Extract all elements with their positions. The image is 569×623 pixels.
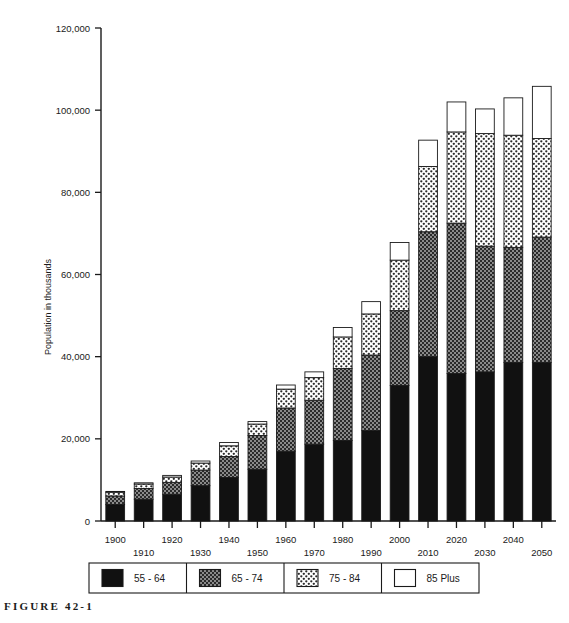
bar-segment (504, 98, 523, 135)
bar-segment (333, 328, 352, 337)
bar-stack (362, 302, 381, 521)
bar-stack (305, 372, 324, 521)
bar-segment (163, 477, 182, 482)
bar-segment (191, 463, 210, 470)
bar-segment (276, 389, 295, 408)
bar-segment (447, 102, 466, 132)
bar-stack (163, 475, 182, 521)
bar-segment (419, 140, 438, 166)
bar-segment (447, 223, 466, 373)
bar-segment (447, 374, 466, 521)
bar-segment (390, 385, 409, 521)
legend-swatch-75-84 (297, 570, 318, 587)
bar-stack (276, 385, 295, 521)
bar-stack (390, 242, 409, 521)
bar-segment (191, 470, 210, 486)
x-tick-label: 1980 (332, 534, 353, 545)
bar-segment (276, 385, 295, 389)
y-axis-ticks: 020,00040,00060,00080,000100,000120,000 (56, 23, 101, 527)
bar-segment (419, 166, 438, 231)
x-tick-label: 1970 (304, 547, 325, 558)
bar-series-group (106, 86, 551, 521)
x-tick-label: 1910 (133, 547, 154, 558)
bar-segment (248, 424, 267, 436)
bar-segment (163, 475, 182, 477)
bar-stack (532, 86, 551, 521)
y-axis-title: Population in thousands (43, 258, 53, 355)
bar-segment (504, 135, 523, 247)
x-tick-label: 1990 (361, 547, 382, 558)
bar-segment (220, 477, 239, 521)
bar-stack (220, 443, 239, 521)
bar-segment (163, 494, 182, 521)
bar-segment (362, 302, 381, 314)
y-tick-label: 20,000 (61, 433, 90, 444)
bar-segment (333, 337, 352, 369)
chart-legend: 55 - 6465 - 7475 - 8485 Plus (89, 563, 479, 593)
bar-segment (305, 378, 324, 401)
x-tick-label: 1930 (190, 547, 211, 558)
x-tick-label: 1940 (218, 534, 239, 545)
x-tick-label: 2050 (531, 547, 552, 558)
x-tick-label: 1900 (105, 534, 126, 545)
bar-segment (476, 246, 495, 372)
bar-segment (134, 499, 153, 521)
y-tick-label: 40,000 (61, 351, 90, 362)
bar-stack (106, 491, 125, 521)
bar-segment (134, 483, 153, 484)
legend-label: 65 - 74 (232, 573, 264, 584)
bar-segment (220, 443, 239, 446)
bar-segment (362, 355, 381, 431)
y-axis: 020,00040,00060,00080,000100,000120,000 … (43, 23, 101, 527)
bar-segment (390, 311, 409, 386)
stacked-bar-chart: 020,00040,00060,00080,000100,000120,000 … (0, 0, 569, 600)
x-tick-label: 2000 (389, 534, 410, 545)
legend-label: 75 - 84 (329, 573, 361, 584)
legend-swatch-55-64 (102, 570, 123, 587)
x-tick-label: 1920 (162, 534, 183, 545)
bar-segment (276, 408, 295, 451)
y-tick-label: 60,000 (61, 269, 90, 280)
bar-segment (305, 444, 324, 521)
bar-segment (504, 362, 523, 521)
bar-segment (106, 492, 125, 496)
x-tick-label: 2020 (446, 534, 467, 545)
x-tick-label: 1960 (275, 534, 296, 545)
x-tick-label: 2010 (417, 547, 438, 558)
bar-segment (333, 369, 352, 441)
bar-segment (476, 109, 495, 134)
bar-segment (504, 247, 523, 362)
bar-stack (504, 98, 523, 521)
bar-segment (532, 139, 551, 238)
bar-segment (106, 505, 125, 521)
bar-stack (447, 102, 466, 521)
bar-segment (476, 134, 495, 247)
bar-segment (305, 400, 324, 444)
bar-stack (419, 140, 438, 521)
legend-label: 85 Plus (427, 573, 460, 584)
figure-caption: FIGURE 42-1 (4, 600, 94, 612)
bar-segment (248, 422, 267, 424)
y-tick-label: 0 (85, 516, 90, 527)
y-tick-label: 120,000 (56, 23, 90, 34)
bar-segment (220, 457, 239, 478)
bar-stack (191, 461, 210, 521)
bar-segment (305, 372, 324, 378)
x-axis: 1900191019201930194019501960197019801990… (101, 521, 556, 558)
bar-stack (248, 422, 267, 521)
y-tick-label: 100,000 (56, 105, 90, 116)
x-tick-label: 2030 (474, 547, 495, 558)
bar-segment (419, 232, 438, 357)
bar-segment (390, 242, 409, 260)
bar-segment (106, 496, 125, 505)
bar-segment (362, 314, 381, 355)
bar-segment (532, 362, 551, 521)
y-tick-label: 80,000 (61, 187, 90, 198)
bar-segment (163, 482, 182, 494)
bar-segment (191, 461, 210, 463)
bar-segment (134, 484, 153, 489)
bar-segment (362, 431, 381, 521)
figure-container: 020,00040,00060,00080,000100,000120,000 … (0, 0, 569, 623)
x-tick-label: 2040 (503, 534, 524, 545)
legend-swatch-85plus (395, 570, 416, 587)
